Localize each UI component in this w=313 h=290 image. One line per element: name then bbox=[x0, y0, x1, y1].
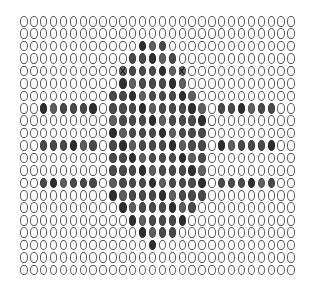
grid-cell bbox=[286, 189, 296, 201]
empty-oval-icon bbox=[228, 227, 235, 238]
grid-cell bbox=[39, 115, 49, 127]
filled-oval-icon bbox=[188, 165, 195, 176]
filled-oval-icon bbox=[139, 215, 146, 226]
grid-cell bbox=[19, 77, 29, 89]
empty-oval-icon bbox=[20, 66, 27, 77]
grid-cell bbox=[118, 127, 128, 139]
filled-oval-icon bbox=[188, 140, 195, 151]
grid-cell bbox=[68, 214, 78, 226]
empty-oval-icon bbox=[70, 227, 77, 238]
empty-oval-icon bbox=[268, 16, 275, 27]
grid-cell bbox=[108, 177, 118, 189]
empty-oval-icon bbox=[109, 16, 116, 27]
filled-oval-icon bbox=[109, 178, 116, 189]
empty-oval-icon bbox=[80, 215, 87, 226]
grid-cell bbox=[266, 102, 276, 114]
empty-oval-icon bbox=[60, 227, 67, 238]
grid-cell bbox=[217, 27, 227, 39]
grid-cell bbox=[19, 239, 29, 251]
grid-cell bbox=[276, 177, 286, 189]
empty-oval-icon bbox=[60, 165, 67, 176]
filled-oval-icon bbox=[228, 103, 235, 114]
grid-cell bbox=[187, 115, 197, 127]
grid-cell bbox=[128, 264, 138, 276]
empty-oval-icon bbox=[268, 28, 275, 39]
grid-cell bbox=[68, 65, 78, 77]
grid-cell bbox=[177, 102, 187, 114]
empty-oval-icon bbox=[268, 265, 275, 276]
grid-cell bbox=[78, 202, 88, 214]
grid-cell bbox=[286, 52, 296, 64]
empty-oval-icon bbox=[179, 53, 186, 64]
grid-cell bbox=[217, 90, 227, 102]
filled-oval-icon bbox=[179, 190, 186, 201]
empty-oval-icon bbox=[208, 252, 215, 263]
filled-oval-icon bbox=[179, 153, 186, 164]
grid-cell bbox=[286, 77, 296, 89]
grid-cell bbox=[276, 189, 286, 201]
grid-cell bbox=[157, 152, 167, 164]
filled-oval-icon bbox=[109, 103, 116, 114]
empty-oval-icon bbox=[238, 215, 245, 226]
filled-oval-icon bbox=[159, 165, 166, 176]
empty-oval-icon bbox=[238, 78, 245, 89]
empty-oval-icon bbox=[258, 240, 265, 251]
empty-oval-icon bbox=[30, 115, 37, 126]
filled-oval-icon bbox=[119, 165, 126, 176]
filled-oval-icon bbox=[129, 115, 136, 126]
grid-cell bbox=[197, 226, 207, 238]
grid-cell bbox=[39, 90, 49, 102]
grid-cell bbox=[98, 177, 108, 189]
grid-cell bbox=[207, 177, 217, 189]
empty-oval-icon bbox=[109, 265, 116, 276]
filled-oval-icon bbox=[159, 103, 166, 114]
grid-cell bbox=[88, 139, 98, 151]
grid-cell bbox=[256, 226, 266, 238]
empty-oval-icon bbox=[277, 215, 284, 226]
empty-oval-icon bbox=[159, 265, 166, 276]
empty-oval-icon bbox=[20, 41, 27, 52]
grid-cell bbox=[49, 90, 59, 102]
grid-cell bbox=[148, 102, 158, 114]
grid-cell bbox=[246, 15, 256, 27]
grid-cell bbox=[266, 90, 276, 102]
grid-cell bbox=[128, 77, 138, 89]
filled-oval-icon bbox=[119, 178, 126, 189]
empty-oval-icon bbox=[80, 202, 87, 213]
grid-cell bbox=[167, 40, 177, 52]
grid-cell bbox=[148, 52, 158, 64]
grid-cell bbox=[59, 65, 69, 77]
empty-oval-icon bbox=[198, 227, 205, 238]
empty-oval-icon bbox=[208, 66, 215, 77]
grid-cell bbox=[286, 164, 296, 176]
empty-oval-icon bbox=[50, 16, 57, 27]
grid-cell bbox=[118, 139, 128, 151]
filled-oval-icon bbox=[109, 115, 116, 126]
filled-oval-icon bbox=[228, 178, 235, 189]
empty-oval-icon bbox=[277, 16, 284, 27]
empty-oval-icon bbox=[268, 78, 275, 89]
empty-oval-icon bbox=[277, 153, 284, 164]
grid-cell bbox=[29, 90, 39, 102]
empty-oval-icon bbox=[277, 78, 284, 89]
grid-cell bbox=[98, 251, 108, 263]
grid-cell bbox=[108, 152, 118, 164]
empty-oval-icon bbox=[50, 91, 57, 102]
grid-cell bbox=[108, 65, 118, 77]
empty-oval-icon bbox=[119, 265, 126, 276]
grid-cell bbox=[157, 264, 167, 276]
grid-cell bbox=[246, 102, 256, 114]
grid-cell bbox=[237, 90, 247, 102]
empty-oval-icon bbox=[149, 16, 156, 27]
empty-oval-icon bbox=[60, 16, 67, 27]
empty-oval-icon bbox=[277, 66, 284, 77]
grid-cell bbox=[167, 264, 177, 276]
grid-cell bbox=[217, 102, 227, 114]
empty-oval-icon bbox=[129, 265, 136, 276]
filled-oval-icon bbox=[179, 215, 186, 226]
empty-oval-icon bbox=[218, 78, 225, 89]
empty-oval-icon bbox=[248, 91, 255, 102]
grid-cell bbox=[256, 65, 266, 77]
empty-oval-icon bbox=[99, 178, 106, 189]
empty-oval-icon bbox=[40, 41, 47, 52]
